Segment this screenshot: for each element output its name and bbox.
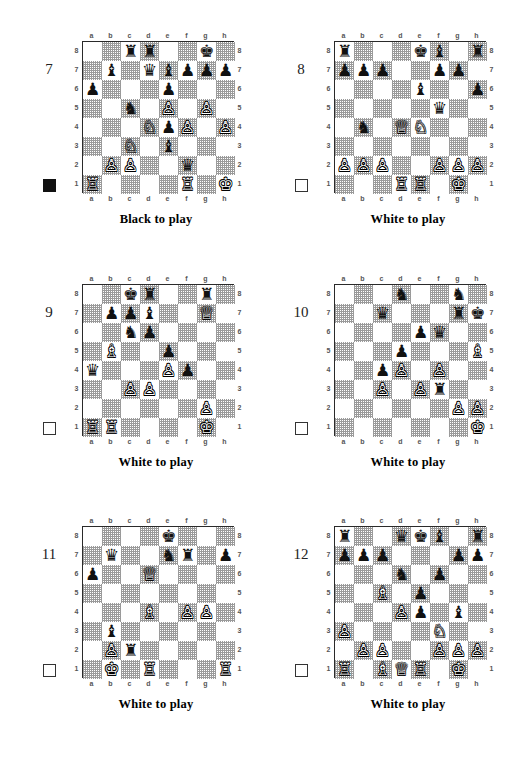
- square-c4[interactable]: [373, 603, 392, 622]
- piece-bQ-f2[interactable]: ♛: [178, 156, 197, 175]
- square-a7[interactable]: [335, 304, 354, 323]
- square-e6[interactable]: [159, 323, 178, 342]
- square-g5[interactable]: ♙: [197, 99, 216, 118]
- piece-bB-g4[interactable]: ♝: [449, 603, 468, 622]
- square-a1[interactable]: [335, 418, 354, 437]
- piece-bB-d7[interactable]: ♝: [140, 304, 159, 323]
- square-d2[interactable]: [392, 641, 411, 660]
- square-f8[interactable]: [178, 42, 197, 61]
- square-b3[interactable]: ♝: [102, 622, 121, 641]
- square-c4[interactable]: [373, 118, 392, 137]
- square-f7[interactable]: ♜: [178, 546, 197, 565]
- square-g4[interactable]: [197, 361, 216, 380]
- square-g1[interactable]: ♔: [449, 660, 468, 679]
- square-g5[interactable]: [197, 584, 216, 603]
- square-g3[interactable]: [197, 380, 216, 399]
- square-f7[interactable]: [178, 304, 197, 323]
- square-a1[interactable]: ♖: [83, 418, 102, 437]
- piece-wR-f1[interactable]: ♖: [178, 175, 197, 194]
- square-c6[interactable]: [373, 80, 392, 99]
- piece-bN-g8[interactable]: ♞: [449, 285, 468, 304]
- square-c6[interactable]: [121, 565, 140, 584]
- square-b5[interactable]: ♗: [102, 342, 121, 361]
- piece-wP-g2[interactable]: ♙: [449, 399, 468, 418]
- square-h4[interactable]: [468, 603, 487, 622]
- piece-bP-h7[interactable]: ♟: [468, 546, 487, 565]
- square-d6[interactable]: ♞: [392, 565, 411, 584]
- square-f5[interactable]: [178, 342, 197, 361]
- piece-wP-f4[interactable]: ♙: [178, 118, 197, 137]
- piece-wQ-d6[interactable]: ♕: [140, 565, 159, 584]
- square-e1[interactable]: [411, 418, 430, 437]
- square-h5[interactable]: [468, 99, 487, 118]
- square-a6[interactable]: [335, 565, 354, 584]
- square-d8[interactable]: ♞: [392, 285, 411, 304]
- square-e2[interactable]: [159, 641, 178, 660]
- square-b4[interactable]: [354, 361, 373, 380]
- piece-wP-f2[interactable]: ♙: [430, 641, 449, 660]
- square-c7[interactable]: ♛: [373, 304, 392, 323]
- piece-wN-e4[interactable]: ♘: [411, 118, 430, 137]
- square-h5[interactable]: [216, 584, 235, 603]
- piece-wR-d1[interactable]: ♖: [140, 660, 159, 679]
- square-d6[interactable]: [392, 323, 411, 342]
- piece-bP-e6[interactable]: ♟: [411, 323, 430, 342]
- piece-wP-e3[interactable]: ♙: [411, 380, 430, 399]
- square-h2[interactable]: [216, 641, 235, 660]
- square-d7[interactable]: [140, 546, 159, 565]
- square-g4[interactable]: ♙: [197, 603, 216, 622]
- square-g3[interactable]: [449, 137, 468, 156]
- piece-bB-e6[interactable]: ♝: [411, 80, 430, 99]
- piece-bB-b7[interactable]: ♝: [102, 61, 121, 80]
- square-e6[interactable]: [159, 565, 178, 584]
- square-c1[interactable]: [373, 175, 392, 194]
- square-a2[interactable]: [335, 399, 354, 418]
- square-e5[interactable]: [411, 99, 430, 118]
- square-g4[interactable]: ♝: [449, 603, 468, 622]
- square-d1[interactable]: [392, 418, 411, 437]
- piece-wP-c2[interactable]: ♙: [373, 641, 392, 660]
- square-h8[interactable]: [216, 42, 235, 61]
- square-f1[interactable]: [178, 660, 197, 679]
- square-e2[interactable]: [159, 399, 178, 418]
- square-a5[interactable]: [83, 99, 102, 118]
- square-d1[interactable]: ♖: [140, 660, 159, 679]
- square-e8[interactable]: [411, 285, 430, 304]
- square-f6[interactable]: [178, 80, 197, 99]
- square-g4[interactable]: [449, 118, 468, 137]
- square-f3[interactable]: [178, 622, 197, 641]
- square-b8[interactable]: [354, 285, 373, 304]
- piece-bQ-f5[interactable]: ♛: [430, 99, 449, 118]
- square-a7[interactable]: [83, 61, 102, 80]
- piece-wP-f4[interactable]: ♙: [178, 603, 197, 622]
- square-e4[interactable]: [159, 603, 178, 622]
- square-e5[interactable]: ♙: [159, 99, 178, 118]
- square-f2[interactable]: [178, 641, 197, 660]
- square-e7[interactable]: [411, 61, 430, 80]
- square-c3[interactable]: ♙: [373, 380, 392, 399]
- square-c4[interactable]: [121, 361, 140, 380]
- square-c5[interactable]: [121, 342, 140, 361]
- square-a1[interactable]: [83, 660, 102, 679]
- square-a5[interactable]: [335, 584, 354, 603]
- square-a8[interactable]: ♜: [335, 42, 354, 61]
- square-h3[interactable]: [216, 137, 235, 156]
- square-h1[interactable]: ♔: [468, 418, 487, 437]
- square-g8[interactable]: [197, 527, 216, 546]
- square-a3[interactable]: ♙: [335, 622, 354, 641]
- square-e7[interactable]: [411, 546, 430, 565]
- piece-wP-h2[interactable]: ♙: [468, 156, 487, 175]
- piece-bR-f3[interactable]: ♜: [430, 380, 449, 399]
- square-b2[interactable]: ♙: [102, 641, 121, 660]
- square-e2[interactable]: [159, 156, 178, 175]
- piece-bP-h7[interactable]: ♟: [216, 546, 235, 565]
- square-h8[interactable]: [468, 285, 487, 304]
- square-c5[interactable]: ♗: [373, 584, 392, 603]
- piece-wR-d1[interactable]: ♖: [392, 175, 411, 194]
- piece-bB-e7[interactable]: ♝: [159, 61, 178, 80]
- piece-wP-g4[interactable]: ♙: [197, 603, 216, 622]
- square-b7[interactable]: ♛: [102, 546, 121, 565]
- square-g2[interactable]: ♙: [449, 641, 468, 660]
- piece-bP-e5[interactable]: ♟: [159, 342, 178, 361]
- square-a6[interactable]: [335, 80, 354, 99]
